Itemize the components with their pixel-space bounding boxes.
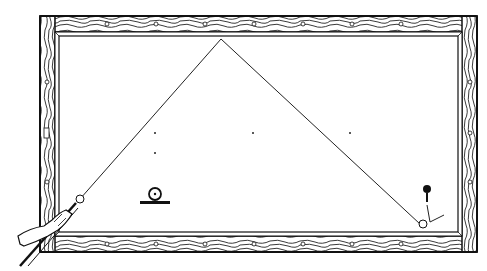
diamond-icon [301,242,305,246]
spot-icon [349,132,351,134]
billiard-table-diagram [0,0,487,271]
diamond-icon [154,242,158,246]
cushion [55,32,462,236]
cue-ball-icon [76,195,84,203]
diamond-icon [252,242,256,246]
spot-icon [252,132,254,134]
diamond-icon [252,22,256,26]
diamond-icon [45,180,49,184]
diamond-icon [45,80,49,84]
diamond-icon [350,242,354,246]
diamond-icon [154,22,158,26]
diamond-icon [105,22,109,26]
diamond-icon [105,242,109,246]
diamond-icon [350,22,354,26]
diamond-icon [468,131,472,135]
rail-marker-icon [44,128,49,138]
diamond-icon [301,22,305,26]
diamond-icon [399,242,403,246]
diamond-icon [399,22,403,26]
diamond-icon [203,242,207,246]
diamond-icon [203,22,207,26]
target-ball-icon [423,185,431,193]
diamond-icon [468,80,472,84]
spot-icon [154,152,156,154]
spot-icon [154,132,156,134]
target-ball-end-icon [419,220,427,228]
diamond-icon [468,180,472,184]
